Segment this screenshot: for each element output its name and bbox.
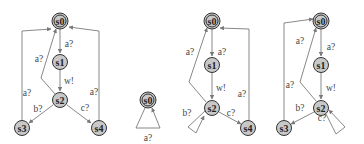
edge-label: a? [218, 47, 226, 57]
automata-figure: a? w! a? b? c? a? a? s0 s1 s2 s3 s4 a? s… [0, 0, 364, 144]
svg-text:s2: s2 [317, 103, 326, 114]
state-s0-initial: s0 [313, 13, 329, 29]
edge-label: b? [183, 108, 192, 118]
svg-text:s4: s4 [244, 123, 253, 134]
edge-s2-s3 [291, 112, 314, 124]
edge-label: w! [216, 83, 226, 93]
svg-text:s0: s0 [56, 16, 65, 27]
edge-label: c? [81, 103, 89, 113]
svg-text:s1: s1 [208, 60, 217, 71]
edge-label: a? [327, 42, 335, 52]
edge-label: b? [296, 103, 305, 113]
edge-label: a? [286, 80, 294, 90]
automaton-2: a? s0 [136, 92, 160, 143]
state-s0-initial: s0 [204, 13, 220, 29]
state-s1: s1 [53, 55, 68, 70]
state-s2: s2 [205, 101, 220, 116]
svg-text:s4: s4 [95, 123, 104, 134]
svg-text:s3: s3 [280, 123, 289, 134]
state-s0-initial: s0 [140, 92, 156, 108]
automaton-4: a? w! a? b? c? a? s0 s1 s2 s3 [277, 13, 346, 136]
edge-label: a? [35, 54, 43, 64]
state-s0-initial: s0 [52, 13, 68, 29]
edge-label: c? [227, 108, 235, 118]
edge-label: w! [326, 83, 336, 93]
edge-label: a? [65, 39, 73, 49]
state-s3: s3 [15, 121, 30, 136]
edge-label: a? [23, 88, 31, 98]
state-s2: s2 [314, 101, 329, 116]
edge-s0-loop [136, 108, 160, 128]
edge-label: a? [90, 87, 98, 97]
state-s1: s1 [205, 58, 220, 73]
svg-text:s1: s1 [317, 60, 326, 71]
state-s4: s4 [92, 121, 107, 136]
automaton-3: a? w! a? b? c? a? s0 s1 s2 s4 [183, 13, 256, 136]
edge-label: b? [34, 104, 43, 114]
svg-text:s2: s2 [56, 95, 65, 106]
svg-text:s3: s3 [18, 123, 27, 134]
svg-text:s0: s0 [144, 95, 153, 106]
edge-s4-s0 [220, 28, 249, 120]
edge-label: a? [238, 89, 246, 99]
state-s4: s4 [241, 121, 256, 136]
edge-label: w! [64, 76, 74, 86]
edge-s2-loop [326, 110, 345, 134]
svg-text:s0: s0 [317, 16, 326, 27]
edge-label: a? [296, 36, 304, 46]
edge-label: a? [186, 47, 194, 57]
svg-text:s1: s1 [56, 57, 65, 68]
svg-text:s0: s0 [208, 16, 217, 27]
automaton-1: a? w! a? b? c? a? a? s0 s1 s2 s3 s4 [15, 13, 107, 136]
svg-text:s2: s2 [208, 103, 217, 114]
state-s2: s2 [53, 93, 68, 108]
state-s3: s3 [277, 121, 292, 136]
edge-label: a? [144, 133, 152, 143]
state-s1: s1 [314, 58, 329, 73]
